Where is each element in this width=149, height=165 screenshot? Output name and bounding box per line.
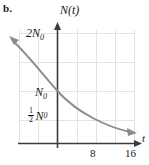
y-annotation-half-n0: 12N0 — [28, 107, 48, 125]
figure-panel: b. N(t) t 2N0 N0 12N0 8 16 — [0, 0, 149, 165]
fraction-numerator: 1 — [28, 107, 34, 115]
fraction-denominator: 2 — [28, 115, 34, 124]
y-annotation-n0-subscript: 0 — [43, 92, 47, 101]
x-axis-label: t — [142, 133, 145, 144]
y-annotation-n0-text: N — [35, 85, 43, 99]
y-axis — [54, 22, 61, 148]
x-tick-label-16: 16 — [125, 148, 136, 159]
y-annotation-2n0-text: 2N — [26, 26, 40, 40]
y-axis-label: N(t) — [60, 4, 79, 16]
y-annotation-half-n0-text: N — [36, 110, 44, 122]
one-half-fraction: 12 — [28, 107, 34, 125]
plot-area — [0, 0, 149, 165]
x-axis-arrowhead — [134, 140, 142, 147]
part-label: b. — [3, 3, 12, 14]
curve-arrowhead-left — [9, 36, 19, 45]
x-tick-label-8: 8 — [90, 148, 96, 159]
x-axis — [18, 140, 142, 147]
y-annotation-2n0-subscript: 0 — [40, 33, 44, 42]
y-annotation-n0: N0 — [35, 86, 47, 101]
y-annotation-half-n0-subscript: 0 — [44, 112, 48, 120]
curve-arrowhead-right — [127, 128, 137, 136]
y-axis-arrowhead — [54, 22, 61, 30]
y-annotation-2n0: 2N0 — [26, 27, 44, 42]
